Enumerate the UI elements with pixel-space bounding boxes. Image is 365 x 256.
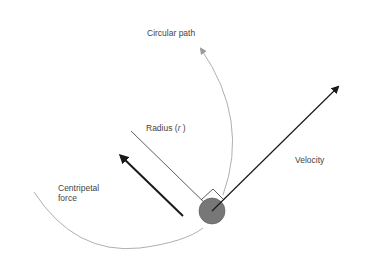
radius-label-suffix: ) — [181, 123, 186, 133]
circular-path-upper-arc — [201, 49, 233, 195]
centripetal-force-label: Centripetal force — [58, 183, 99, 203]
centripetal-label-line2: force — [58, 193, 99, 203]
radius-label: Radius (r ) — [146, 123, 186, 133]
circular-path-label: Circular path — [147, 28, 195, 38]
velocity-arrow — [212, 87, 338, 211]
radius-label-prefix: Radius ( — [146, 123, 178, 133]
centripetal-label-line1: Centripetal — [58, 183, 99, 193]
centripetal-force-arrow — [121, 156, 183, 216]
velocity-label: Velocity — [295, 155, 324, 165]
radius-line — [131, 131, 212, 210]
